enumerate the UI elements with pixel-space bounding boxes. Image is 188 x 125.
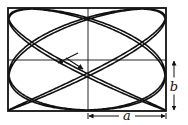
lissajous-diagram: a b [0,0,188,125]
dimension-b-label: b [170,79,178,94]
lissajous-curve [9,9,165,110]
dimension-b: b [170,61,178,110]
direction-arrows [58,53,83,69]
bounding-box [8,8,166,111]
direction-arrow-icon [58,53,78,63]
dimension-a-label: a [123,108,131,123]
